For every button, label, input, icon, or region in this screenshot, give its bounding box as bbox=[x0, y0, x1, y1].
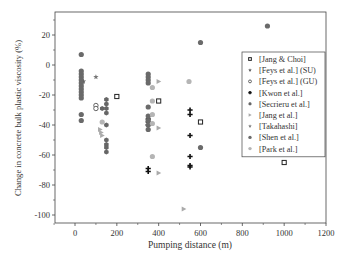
legend-label: [Kwon et al.] bbox=[259, 89, 303, 98]
legend-marker bbox=[248, 136, 251, 139]
x-axis-label: Pumping distance (m) bbox=[148, 240, 232, 251]
x-tick-label: 800 bbox=[236, 228, 249, 238]
data-point bbox=[198, 145, 203, 150]
x-tick-label: 1000 bbox=[276, 228, 293, 238]
legend-item: [Feys et al.] (SU) bbox=[248, 66, 316, 75]
y-tick-label: -60 bbox=[39, 150, 50, 160]
x-tick-label: 600 bbox=[194, 228, 207, 238]
data-point bbox=[146, 127, 151, 132]
series-7 bbox=[79, 23, 270, 150]
y-tick-label: -100 bbox=[34, 210, 50, 220]
y-axis-label: Change in concrete bulk plastic viscosit… bbox=[13, 40, 23, 196]
legend-label: [Secrieru et al.] bbox=[259, 100, 310, 109]
data-point bbox=[100, 106, 105, 111]
data-point bbox=[146, 118, 151, 123]
data-point bbox=[79, 95, 84, 100]
y-tick-label: -40 bbox=[39, 120, 50, 130]
data-point bbox=[104, 106, 109, 111]
x-tick-label: 400 bbox=[152, 228, 165, 238]
data-point bbox=[100, 133, 105, 138]
data-point bbox=[198, 120, 202, 124]
data-point bbox=[187, 112, 192, 117]
y-tick-label: -20 bbox=[39, 90, 50, 100]
data-point bbox=[157, 125, 162, 130]
legend-marker bbox=[248, 147, 251, 150]
data-point bbox=[94, 106, 98, 110]
scatter-chart: 020040060080010001200 200-20-40-60-80-10… bbox=[0, 0, 350, 266]
data-point bbox=[146, 80, 151, 85]
data-point bbox=[146, 104, 151, 109]
legend-label: [Jang et al.] bbox=[259, 111, 298, 120]
x-tick-label: 1200 bbox=[318, 228, 335, 238]
data-point bbox=[150, 112, 155, 117]
data-point bbox=[282, 160, 286, 164]
data-point bbox=[198, 40, 203, 45]
legend-item: [Feys et al.] (GU) bbox=[249, 77, 318, 86]
y-tick-label: -80 bbox=[39, 180, 50, 190]
data-point bbox=[93, 74, 98, 79]
data-point bbox=[150, 154, 155, 159]
data-point bbox=[104, 137, 109, 142]
x-tick-label: 0 bbox=[73, 228, 77, 238]
legend-label: [Feys et al.] (GU) bbox=[259, 77, 317, 86]
data-point bbox=[115, 94, 119, 98]
data-point bbox=[104, 149, 109, 154]
legend-marker bbox=[249, 58, 252, 61]
data-point bbox=[157, 170, 162, 175]
data-point bbox=[186, 79, 191, 84]
legend-label: [Takahashi] bbox=[259, 122, 298, 131]
series-8 bbox=[100, 79, 192, 159]
y-tick-label: 20 bbox=[42, 30, 51, 40]
data-point bbox=[157, 99, 161, 103]
data-point bbox=[79, 52, 84, 57]
legend: [Jang & Choi][Feys et al.] (SU)[Feys et … bbox=[242, 52, 325, 157]
data-point bbox=[265, 23, 270, 28]
data-point bbox=[150, 121, 155, 126]
series-3 bbox=[146, 107, 193, 174]
legend-label: [Park et al.] bbox=[259, 145, 298, 154]
legend-label: [Jang & Choi] bbox=[259, 55, 306, 64]
legend-label: [Feys et al.] (SU) bbox=[259, 66, 316, 75]
data-point bbox=[150, 85, 155, 90]
data-point bbox=[104, 110, 109, 115]
series-4 bbox=[100, 97, 109, 155]
series-2 bbox=[94, 103, 98, 110]
data-point bbox=[79, 118, 84, 123]
series-6 bbox=[93, 74, 98, 79]
data-point bbox=[146, 169, 151, 174]
data-point bbox=[187, 107, 192, 112]
data-point bbox=[187, 133, 192, 138]
legend-marker bbox=[249, 80, 252, 83]
data-point bbox=[100, 119, 105, 124]
legend-label: [Shen et al.] bbox=[259, 133, 299, 142]
data-point bbox=[187, 154, 192, 159]
series-5 bbox=[98, 79, 186, 212]
y-tick-label: 0 bbox=[46, 60, 50, 70]
x-tick-label: 200 bbox=[110, 228, 123, 238]
data-point bbox=[104, 122, 109, 127]
data-point bbox=[150, 98, 155, 103]
data-point bbox=[182, 206, 187, 211]
data-point bbox=[104, 101, 109, 106]
data-point bbox=[157, 79, 162, 84]
data-point bbox=[79, 112, 84, 117]
data-point bbox=[104, 97, 109, 102]
